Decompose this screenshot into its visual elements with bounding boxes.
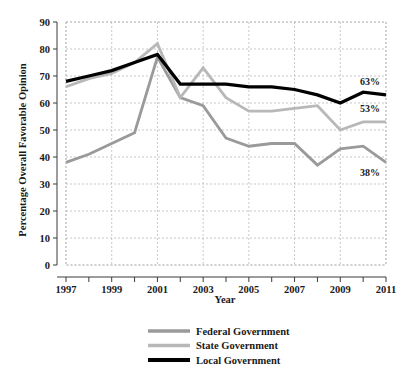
- y-axis-tick-label: 60: [40, 98, 51, 109]
- y-axis-tick-label: 40: [40, 152, 51, 163]
- annotation-53pct: 53%: [360, 103, 380, 114]
- x-axis-tick-label: 2009: [330, 284, 351, 295]
- chart-background: [0, 0, 410, 374]
- y-axis-tick-label: 20: [40, 206, 51, 217]
- x-axis-tick-label: 2003: [193, 284, 214, 295]
- legend-label-local-government: Local Government: [196, 355, 281, 366]
- y-axis-tick-label: 50: [40, 125, 51, 136]
- annotation-63pct: 63%: [360, 76, 380, 87]
- chart-legend: Federal GovernmentState GovernmentLocal …: [148, 326, 290, 366]
- annotation-38pct: 38%: [360, 167, 380, 178]
- x-axis-tick-label: 2005: [238, 284, 259, 295]
- y-axis-tick-label: 0: [45, 260, 50, 271]
- x-axis-tick-label: 1997: [56, 284, 77, 295]
- x-axis-tick-label: 2007: [284, 284, 305, 295]
- legend-label-federal-government: Federal Government: [196, 326, 290, 337]
- y-axis-tick-label: 70: [40, 71, 51, 82]
- x-axis-title: Year: [215, 294, 236, 305]
- x-axis-tick-label: 2001: [147, 284, 168, 295]
- y-axis-tick-label: 90: [40, 17, 51, 28]
- x-axis-tick-label: 1999: [101, 284, 122, 295]
- legend-label-state-government: State Government: [196, 340, 278, 351]
- line-chart: 0102030405060708090 19971999200120032005…: [0, 0, 410, 374]
- y-axis-tick-label: 80: [40, 44, 51, 55]
- y-axis-tick-label: 30: [40, 179, 51, 190]
- y-axis-title: Percentage Overall Favorable Opinion: [17, 63, 28, 236]
- x-axis-tick-label: 2011: [376, 284, 396, 295]
- chart-canvas: 0102030405060708090 19971999200120032005…: [0, 0, 410, 374]
- y-axis-tick-label: 10: [40, 233, 51, 244]
